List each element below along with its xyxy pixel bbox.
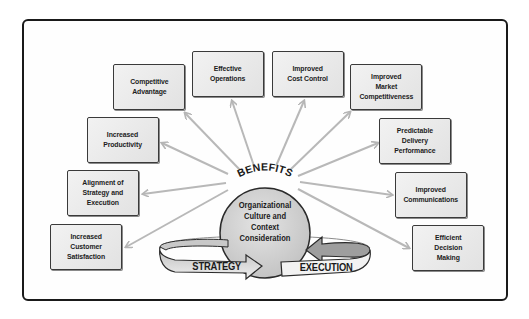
benefit-box-predictable-delivery-performance: Predictable Delivery Performance (379, 118, 451, 164)
benefit-box-improved-market-competitiveness: Improved Market Competitiveness (350, 64, 422, 110)
benefit-label: Increased Productivity (104, 130, 143, 150)
benefit-box-increased-productivity: Increased Productivity (87, 117, 159, 163)
benefit-box-increased-customer-satisfaction: Increased Customer Satisfaction (50, 224, 122, 270)
execution-label: EXECUTION (300, 261, 353, 273)
benefit-label: Alignment of Strategy and Execution (82, 178, 123, 208)
benefit-box-competitive-advantage: Competitive Advantage (113, 64, 185, 110)
benefit-box-improved-cost-control: Improved Cost Control (272, 51, 344, 97)
benefit-label: Efficient Decision Making (434, 233, 462, 263)
benefit-label: Competitive Advantage (130, 77, 168, 97)
benefit-label: Predictable Delivery Performance (394, 126, 435, 156)
benefit-label: Improved Cost Control (288, 64, 329, 84)
benefit-label: Effective Operations (210, 64, 245, 84)
benefit-box-improved-communications: Improved Communications (395, 172, 467, 218)
svg-text:BENEFITS: BENEFITS (235, 160, 295, 179)
benefit-box-alignment-of-strategy-and-execution: Alignment of Strategy and Execution (67, 170, 139, 216)
benefit-box-effective-operations: Effective Operations (192, 51, 264, 97)
benefit-label: Improved Market Competitiveness (359, 72, 413, 102)
benefit-label: Improved Communications (404, 185, 459, 205)
benefit-box-efficient-decision-making: Efficient Decision Making (412, 225, 484, 271)
culture-circle-text: Organizational Culture and Context Consi… (225, 200, 304, 244)
strategy-label: STRATEGY (192, 260, 241, 272)
benefit-label: Increased Customer Satisfaction (67, 232, 105, 262)
benefits-title: BENEFITS (235, 160, 295, 179)
